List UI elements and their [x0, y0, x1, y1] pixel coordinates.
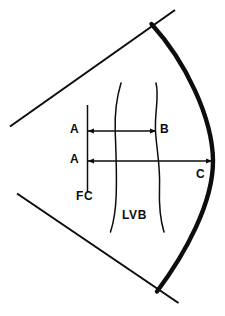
outer-arc — [152, 24, 214, 292]
label-b: B — [160, 123, 169, 135]
label-fc: FC — [76, 190, 93, 202]
sector-upper-edge — [10, 10, 175, 127]
diagram-svg — [0, 0, 225, 316]
label-lvb: LVB — [122, 209, 147, 221]
sector-lower-edge — [17, 194, 179, 304]
label-a-upper: A — [70, 123, 79, 135]
label-a-lower: A — [70, 153, 79, 165]
label-c: C — [196, 168, 205, 180]
lvb-left-curve — [111, 83, 122, 232]
figure-container: A A B C FC LVB — [0, 0, 225, 316]
lvb-right-curve — [155, 83, 164, 232]
